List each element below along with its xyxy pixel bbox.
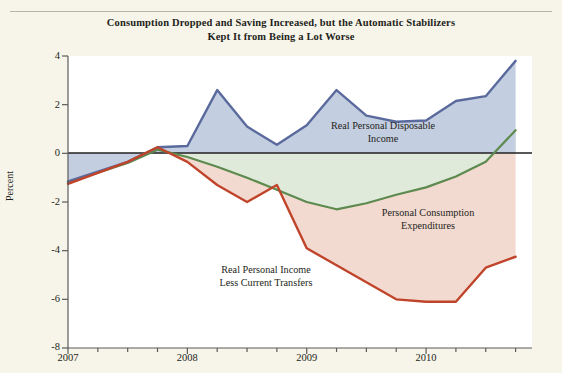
y-tick-label-neg2: -2 xyxy=(34,196,60,207)
y-tick-label-4: 4 xyxy=(34,50,60,61)
y-tick-label-2: 2 xyxy=(34,99,60,110)
x-tick-label-2007: 2007 xyxy=(38,352,98,363)
y-tick-label-neg8: -8 xyxy=(34,341,60,352)
series-annotation-consumption-expenditures: Personal Consumption Expenditures xyxy=(358,207,498,232)
chart-figure: Consumption Dropped and Saving Increased… xyxy=(0,0,562,373)
x-tick-label-2010: 2010 xyxy=(396,352,456,363)
plot-area: Percent 4 2 0 -2 -4 -6 -8 2007 2008 2009… xyxy=(0,0,562,373)
chart-svg xyxy=(0,0,562,373)
y-tick-label-neg6: -6 xyxy=(34,293,60,304)
x-tick-label-2009: 2009 xyxy=(277,352,337,363)
series-annotation-disposable-income: Real Personal Disposable Income xyxy=(313,120,453,145)
y-axis-ticks xyxy=(62,56,68,348)
y-tick-label-neg4: -4 xyxy=(34,244,60,255)
y-axis-label: Percent xyxy=(4,171,15,201)
y-tick-label-0: 0 xyxy=(34,147,60,158)
series-annotation-income-less-transfers: Real Personal Income Less Current Transf… xyxy=(196,264,336,289)
x-tick-label-2008: 2008 xyxy=(157,352,217,363)
